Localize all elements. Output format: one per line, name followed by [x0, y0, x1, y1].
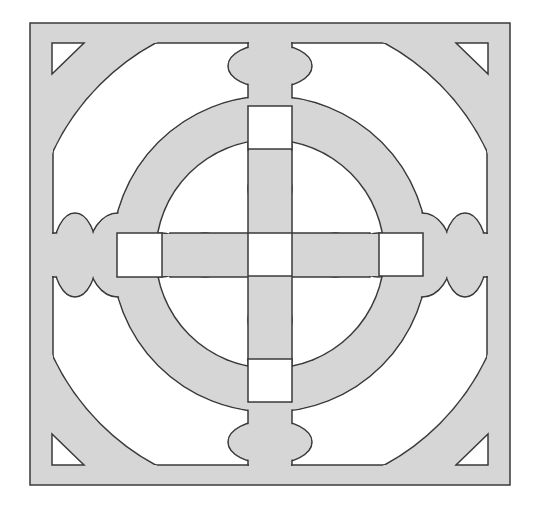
square-bottom [248, 359, 292, 402]
square-top [248, 106, 292, 149]
square-right [379, 233, 423, 276]
square-left [117, 233, 162, 277]
stencil-pattern [0, 0, 539, 520]
square-center [248, 233, 292, 276]
